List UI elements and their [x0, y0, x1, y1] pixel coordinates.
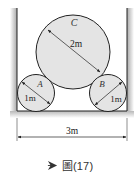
circle-a: A 1m [18, 75, 55, 112]
width-label: 3m [66, 126, 79, 136]
left-wall-shade [10, 8, 17, 111]
circle-b: B 1m [90, 75, 127, 112]
circle-c-label: C [71, 17, 78, 28]
floor-shade [10, 111, 134, 118]
diagram-canvas: C 2m A 1m B 1m 3m [0, 0, 140, 179]
width-dimension: 3m [17, 118, 127, 141]
play-arrow-icon [47, 160, 58, 171]
figure-number: 圖(17) [62, 157, 94, 173]
circle-c-diameter-label: 2m [70, 39, 83, 49]
circle-b-label: B [99, 79, 105, 89]
circle-a-label: A [36, 79, 43, 89]
right-wall-shade [127, 8, 134, 111]
diagram-figure-17: C 2m A 1m B 1m 3m [0, 0, 140, 179]
circle-b-diameter-label: 1m [110, 94, 122, 104]
figure-caption: 圖(17) [0, 157, 140, 173]
circle-a-diameter-label: 1m [24, 93, 36, 103]
